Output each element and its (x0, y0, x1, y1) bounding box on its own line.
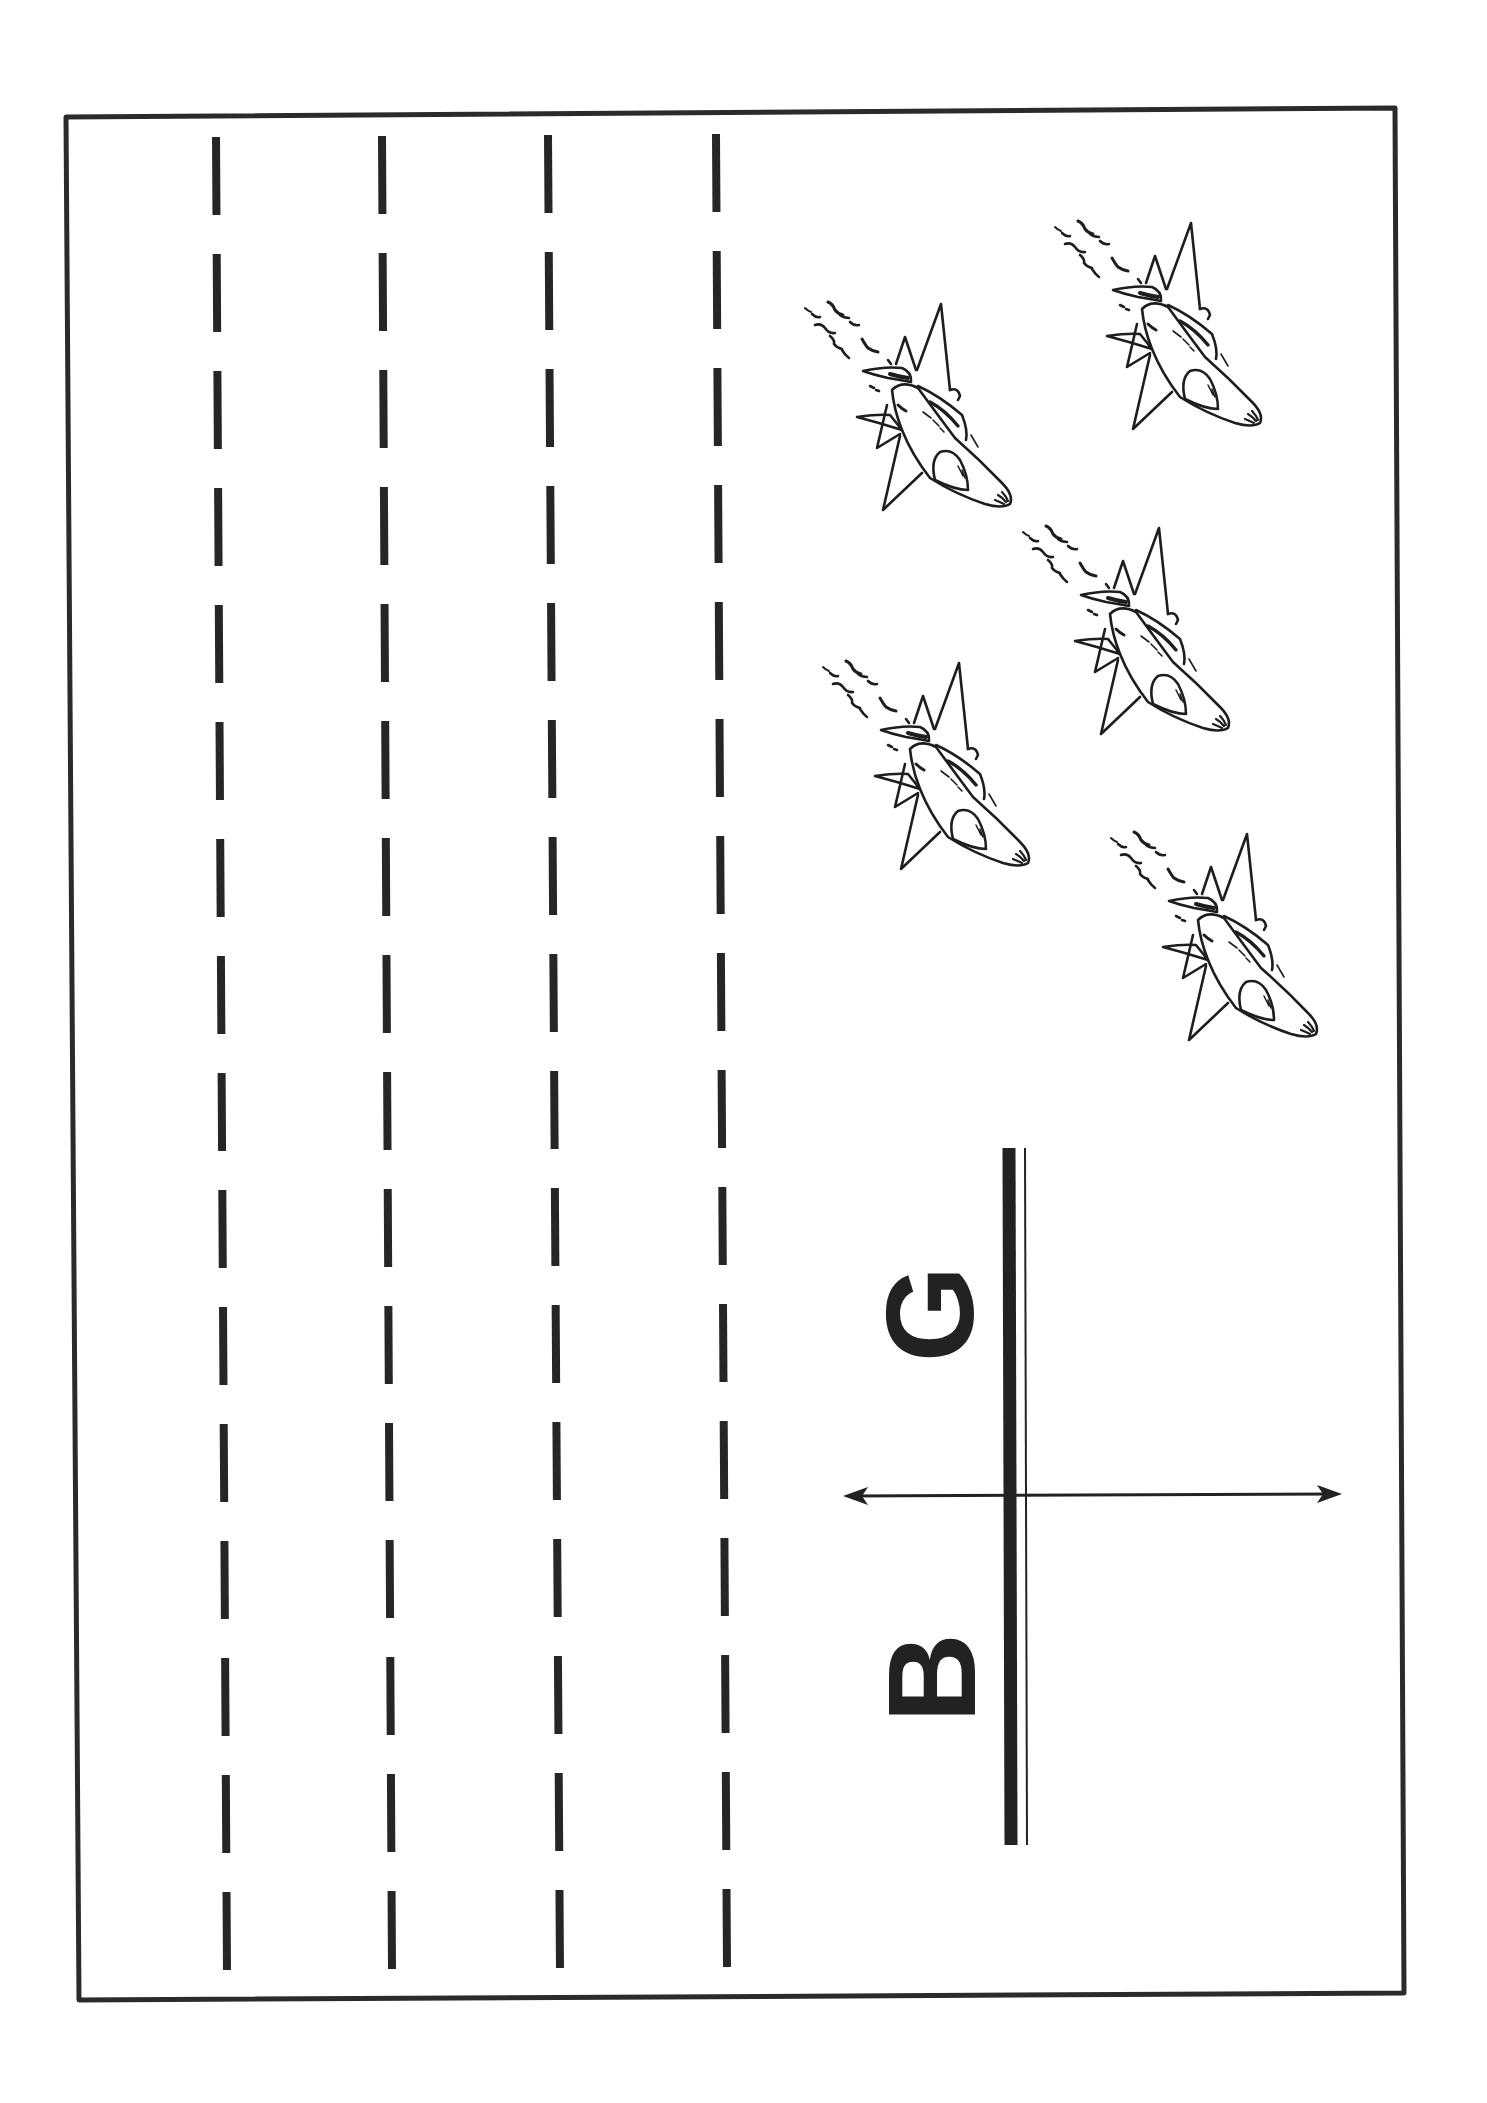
jet-2-icon (1055, 221, 1261, 429)
worksheet-canvas (0, 0, 1487, 2103)
worksheet-frame (66, 108, 1404, 2000)
jet-3-icon (1023, 526, 1229, 734)
tracing-line-4[interactable] (716, 134, 727, 1970)
jet-1-icon (805, 302, 1011, 510)
tracing-line-2[interactable] (382, 136, 392, 1972)
tracing-line-3[interactable] (548, 135, 560, 1971)
stop-letter-b: B (870, 1633, 994, 1723)
start-letter-g: G (868, 1266, 992, 1362)
jet-formation (805, 221, 1317, 1040)
jet-4-icon (823, 661, 1029, 869)
tracing-line-1[interactable] (216, 137, 227, 1973)
tracing-lines (216, 134, 727, 1973)
jet-5-icon (1111, 832, 1317, 1040)
double-arrow (843, 1485, 1342, 1505)
